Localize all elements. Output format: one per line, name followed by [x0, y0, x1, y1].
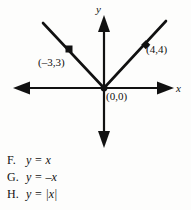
answer-choice-g-letter: G. — [7, 170, 26, 185]
coordinate-plane-figure: y x (–3,3) (4,4) (0,0) — [0, 0, 191, 152]
answer-choices-list: F. y = x G. y = –x H. y = |x| — [0, 153, 191, 204]
point-label-four-four: (4,4) — [146, 44, 167, 55]
y-axis-bottom-arrowhead — [98, 131, 110, 148]
x-axis-left-arrowhead — [13, 82, 30, 95]
y-axis-label: y — [96, 4, 101, 15]
y-axis-top-arrowhead — [98, 15, 110, 32]
answer-choice-g-equation: y = –x — [26, 170, 57, 185]
x-axis-right-arrowhead — [157, 82, 174, 95]
point-label-negative-three-three: (–3,3) — [38, 57, 65, 68]
answer-choice-h-equation: y = |x| — [26, 187, 57, 202]
answer-choice-h[interactable]: H. y = |x| — [0, 187, 191, 204]
answer-choice-h-letter: H. — [7, 187, 26, 202]
point-label-origin: (0,0) — [106, 91, 127, 102]
answer-choice-g[interactable]: G. y = –x — [0, 170, 191, 187]
coordinate-plane-svg — [0, 0, 191, 152]
question-figure-page: y x (–3,3) (4,4) (0,0) F. y = x G. y = –… — [0, 0, 191, 210]
answer-choice-f-equation: y = x — [26, 153, 51, 168]
answer-choice-f-letter: F. — [7, 153, 26, 168]
x-axis-label: x — [176, 83, 181, 94]
point-marker-negative-three-three — [66, 46, 73, 53]
answer-choice-f[interactable]: F. y = x — [0, 153, 191, 170]
